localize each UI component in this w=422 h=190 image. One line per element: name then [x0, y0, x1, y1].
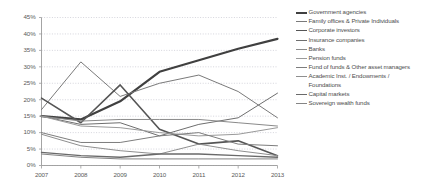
- y-axis-tick-label: 25%: [12, 80, 36, 86]
- x-axis-tick-label: 2012: [223, 172, 253, 178]
- legend-item[interactable]: Corporate investors: [296, 26, 422, 34]
- legend-item-label: Banks: [309, 45, 325, 53]
- legend-swatch-line-icon: [296, 94, 307, 95]
- y-axis-tick-label: 30%: [12, 64, 36, 70]
- x-axis-tick-label: 2009: [105, 172, 135, 178]
- series-line: [42, 134, 278, 155]
- legend-item[interactable]: Capital markets: [296, 90, 422, 98]
- y-axis-tick-label: 35%: [12, 47, 36, 53]
- gridlines: [42, 18, 278, 166]
- legend-item-label: Pension funds: [309, 54, 346, 62]
- legend-swatch-line-icon: [296, 30, 307, 31]
- y-axis-tick-label: 40%: [12, 31, 36, 37]
- legend-item-label: Capital markets: [309, 90, 350, 98]
- legend-swatch-line-icon: [296, 49, 307, 50]
- y-axis-tick-label: 0%: [12, 162, 36, 168]
- series-line: [42, 62, 278, 118]
- legend-swatch-line-icon: [296, 12, 307, 14]
- x-axis-tick-label: 2010: [145, 172, 175, 178]
- legend-swatch-line-icon: [296, 76, 307, 77]
- legend-item[interactable]: Family offices & Private Individuals: [296, 17, 422, 25]
- legend-swatch-line-icon: [296, 103, 307, 104]
- legend-item-label: Family offices & Private Individuals: [309, 17, 399, 25]
- x-axis-tick-label: 2013: [263, 172, 293, 178]
- x-axis-tick-label: 2007: [27, 172, 57, 178]
- y-axis-tick-label: 5%: [12, 146, 36, 152]
- legend-item[interactable]: Academic Inst. / Endowments / Foundation…: [296, 72, 422, 88]
- legend-item[interactable]: Sovereign wealth funds: [296, 99, 422, 107]
- legend-swatch-line-icon: [296, 67, 307, 68]
- legend-item-label: Government agencies: [309, 8, 367, 16]
- legend-item-label: Insurance companies: [309, 36, 365, 44]
- y-axis-tick-label: 45%: [12, 14, 36, 20]
- legend-item-label: Corporate investors: [309, 26, 360, 34]
- legend-item[interactable]: Banks: [296, 45, 422, 53]
- x-axis-tick-label: 2011: [184, 172, 214, 178]
- line-chart: 0%5%10%15%20%25%30%35%40%45% 20072008200…: [0, 0, 422, 190]
- x-axis-tick-label: 2008: [66, 172, 96, 178]
- legend-item[interactable]: Pension funds: [296, 54, 422, 62]
- legend-item-label: Fund of funds & Other asset managers: [309, 63, 410, 71]
- legend-item-label: Academic Inst. / Endowments / Foundation…: [309, 72, 421, 88]
- legend-item[interactable]: Government agencies: [296, 8, 422, 16]
- legend-swatch-line-icon: [296, 58, 307, 59]
- series-line: [42, 133, 278, 146]
- legend-swatch-line-icon: [296, 21, 307, 22]
- axis-lines: [39, 18, 278, 166]
- series-lines: [42, 39, 278, 159]
- series-line: [42, 39, 278, 120]
- legend-item[interactable]: Fund of funds & Other asset managers: [296, 63, 422, 71]
- legend-item-label: Sovereign wealth funds: [309, 99, 370, 107]
- legend: Government agenciesFamily offices & Priv…: [296, 8, 422, 108]
- y-axis-tick-label: 15%: [12, 113, 36, 119]
- y-axis-tick-label: 20%: [12, 97, 36, 103]
- legend-swatch-line-icon: [296, 40, 307, 41]
- legend-item[interactable]: Insurance companies: [296, 36, 422, 44]
- y-axis-tick-label: 10%: [12, 129, 36, 135]
